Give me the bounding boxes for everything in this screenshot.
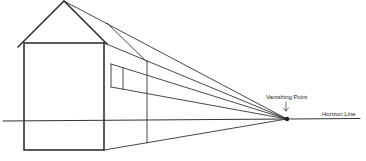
orthogonal-roof-peak [64, 1, 287, 119]
vanishing-point-label: Vanishing Point [266, 94, 307, 100]
orthogonal-eave [104, 43, 287, 119]
horizon-line-label: Horizon Line [322, 111, 356, 117]
front-wall [24, 43, 104, 150]
back-roof-edge [107, 23, 147, 62]
front-roof [18, 1, 107, 47]
perspective-diagram [0, 0, 366, 161]
vanishing-point-dot [285, 117, 289, 121]
orthogonal-base [104, 119, 287, 150]
horizon-line [3, 119, 360, 122]
